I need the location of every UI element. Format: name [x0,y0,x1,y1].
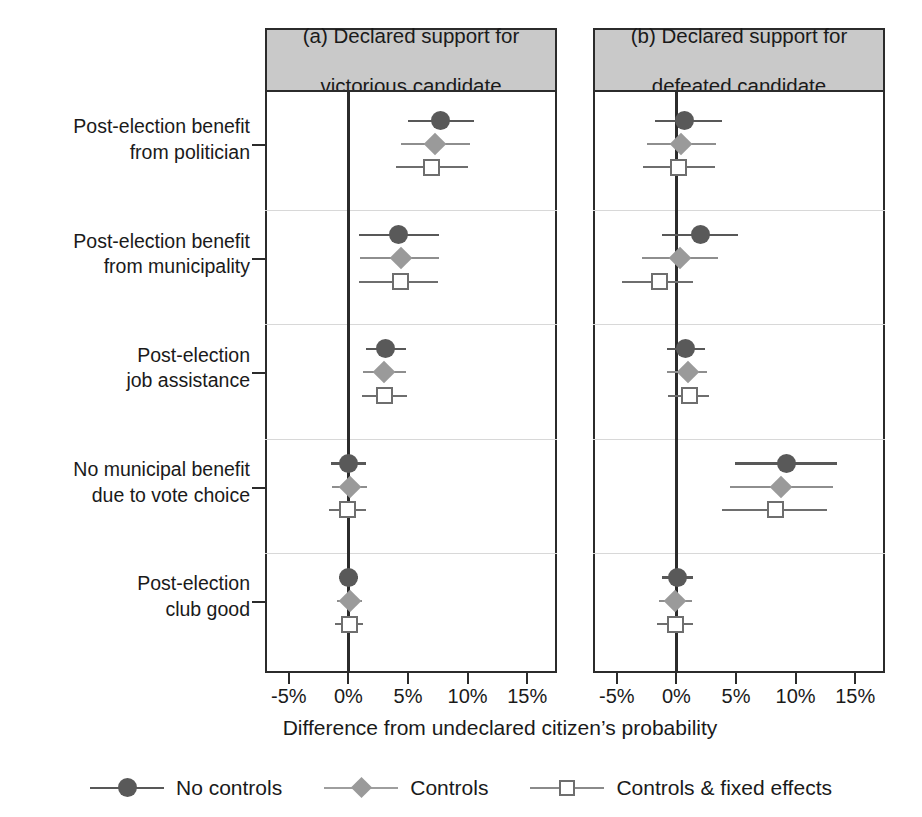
legend-symbol-circle-icon [90,777,164,799]
category-label-line: No municipal benefit [73,458,250,480]
x-axis-tick [795,673,797,684]
x-axis-tick [616,673,618,684]
legend-symbol-square-icon [530,777,604,799]
category-separator [593,210,885,211]
category-label-1: Post-election benefitfrom politician [10,114,250,165]
category-label-line: Post-election [137,572,250,594]
category-separator [593,324,885,325]
category-label-line: due to vote choice [92,484,250,506]
x-axis-tick [854,673,856,684]
estimate-marker-circle [668,568,687,587]
category-label-2: Post-election benefitfrom municipality [10,229,250,280]
estimate-marker-square [341,616,358,633]
category-separator [593,439,885,440]
category-label-line: from politician [130,141,250,163]
x-axis-tick [675,673,677,684]
legend-label-no-controls: No controls [176,776,282,800]
category-label-line: club good [165,598,250,620]
category-label-line: Post-election benefit [73,230,250,252]
estimate-marker-square [767,501,784,518]
estimate-marker-circle [777,454,796,473]
x-axis-tick-label: -5% [255,685,323,707]
x-axis-tick [347,673,349,684]
estimate-marker-circle [339,454,358,473]
legend-label-controls-fixed-effects: Controls & fixed effects [616,776,832,800]
estimate-marker-square [339,501,356,518]
x-axis-tick-label: 15% [821,685,889,707]
panel-b-title-line1: (b) Declared support for [631,23,847,48]
category-axis-tick [252,144,265,146]
estimate-marker-square [423,159,440,176]
estimate-marker-square [392,273,409,290]
legend: No controls Controls Controls & fixed ef… [0,765,922,810]
estimate-marker-circle [339,568,358,587]
panel-a-plot-area [265,90,557,673]
panel-a-title: (a) Declared support for victorious cand… [265,28,557,90]
category-separator [265,439,557,440]
x-axis-tick-label: 5% [374,685,442,707]
category-label-line: Post-election benefit [73,115,250,137]
category-axis-tick [252,487,265,489]
category-label-3: Post-electionjob assistance [10,343,250,394]
category-axis-tick [252,601,265,603]
x-axis-tick-label: 10% [434,685,502,707]
estimate-marker-square [667,616,684,633]
legend-label-controls: Controls [410,776,488,800]
x-axis-tick [288,673,290,684]
category-separator [265,210,557,211]
x-axis-tick [526,673,528,684]
category-label-5: Post-electionclub good [10,571,250,622]
estimate-marker-square [681,387,698,404]
x-axis-tick-label: 10% [762,685,830,707]
x-axis-title: Difference from undeclared citizen’s pro… [180,716,820,740]
category-separator [265,553,557,554]
category-label-4: No municipal benefitdue to vote choice [10,457,250,508]
legend-symbol-diamond-icon [324,777,398,799]
category-axis-tick [252,258,265,260]
panel-a-title-line1: (a) Declared support for [303,23,519,48]
legend-item-controls[interactable]: Controls [324,776,488,800]
coefficient-plot-figure: (a) Declared support for victorious cand… [0,0,922,817]
x-axis-tick [735,673,737,684]
x-axis-tick-label: -5% [583,685,651,707]
category-label-line: from municipality [104,255,250,277]
panel-b-title: (b) Declared support for defeated candid… [593,28,885,90]
category-label-line: Post-election [137,344,250,366]
x-axis-tick [467,673,469,684]
x-axis-tick-label: 15% [493,685,561,707]
estimate-marker-circle [691,225,710,244]
category-separator [593,553,885,554]
category-separator [265,324,557,325]
x-axis-tick-label: 0% [314,685,382,707]
estimate-marker-square [376,387,393,404]
category-axis-tick [252,372,265,374]
category-label-line: job assistance [126,369,250,391]
x-axis-tick [407,673,409,684]
estimate-marker-square [651,273,668,290]
estimate-marker-circle [431,111,450,130]
estimate-marker-square [670,159,687,176]
panel-b-plot-area [593,90,885,673]
legend-item-controls-fixed-effects[interactable]: Controls & fixed effects [530,776,832,800]
x-axis-tick-label: 5% [702,685,770,707]
legend-item-no-controls[interactable]: No controls [90,776,282,800]
x-axis-tick-label: 0% [642,685,710,707]
